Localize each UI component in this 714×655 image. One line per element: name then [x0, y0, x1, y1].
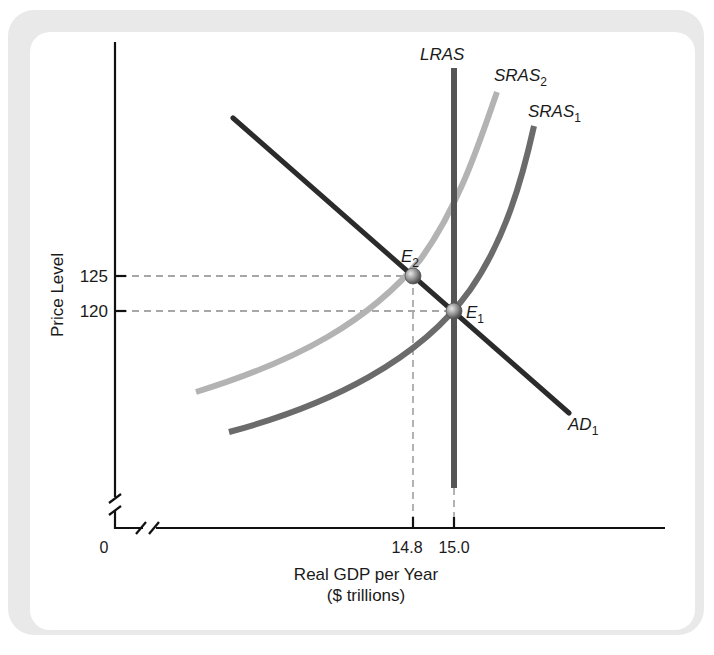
- y-axis-title: Price Level: [48, 253, 67, 337]
- sras1-curve: [229, 126, 534, 432]
- x-tick-label-150: 15.0: [438, 539, 469, 556]
- x-axis-title: Real GDP per Year: [294, 565, 439, 584]
- y-tick-label-120: 120: [80, 302, 108, 321]
- x-axis-subtitle: ($ trillions): [327, 586, 405, 605]
- e1-point: [446, 303, 462, 319]
- e2-point: [405, 268, 421, 284]
- x-tick-label-148: 14.8: [391, 539, 422, 556]
- ad1-label: AD1: [567, 415, 599, 438]
- axes: [109, 42, 665, 534]
- figure-frame: LRAS SRAS2 SRAS1 AD1 E2 E1 125 120 0 14.…: [0, 0, 714, 655]
- sras2-label: SRAS2: [494, 66, 547, 89]
- sras1-label: SRAS1: [528, 102, 581, 125]
- lras-label: LRAS: [420, 45, 465, 64]
- guide-lines: [120, 276, 454, 520]
- x-tick-label-0: 0: [100, 539, 109, 556]
- y-tick-label-125: 125: [80, 267, 108, 286]
- y-axis-lower: [115, 510, 143, 528]
- chart: LRAS SRAS2 SRAS1 AD1 E2 E1 125 120 0 14.…: [0, 0, 714, 655]
